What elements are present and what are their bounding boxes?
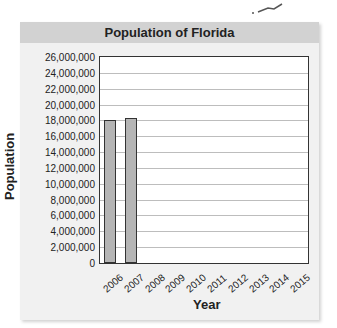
y-tick-label: 10,000,000 [45, 178, 95, 189]
y-tick-label: 16,000,000 [45, 131, 95, 142]
gridline [100, 73, 308, 74]
y-tick-label: 8,000,000 [51, 194, 96, 205]
y-tick-label: 0 [89, 258, 95, 269]
gridline [100, 105, 308, 106]
x-axis-label: Year [193, 297, 220, 312]
y-tick-label: 18,000,000 [45, 115, 95, 126]
decorative-sketch-icon [250, 2, 290, 14]
y-tick-label: 2,000,000 [51, 242, 96, 253]
chart-title: Population of Florida [20, 22, 319, 43]
bar-2006 [104, 120, 116, 263]
y-tick-label: 26,000,000 [45, 52, 95, 63]
y-tick-label: 20,000,000 [45, 99, 95, 110]
bar-2007 [125, 118, 137, 263]
y-tick-label: 6,000,000 [51, 210, 96, 221]
y-axis-label: Population [2, 133, 17, 200]
y-tick-label: 24,000,000 [45, 67, 95, 78]
gridline [100, 89, 308, 90]
plot-area [99, 56, 309, 264]
y-tick-label: 22,000,000 [45, 83, 95, 94]
y-tick-label: 4,000,000 [51, 226, 96, 237]
y-tick-label: 12,000,000 [45, 162, 95, 173]
y-tick-label: 14,000,000 [45, 147, 95, 158]
